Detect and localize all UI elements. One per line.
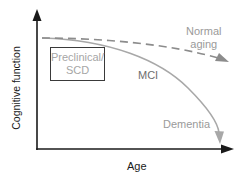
box-label-line2: SCD bbox=[66, 64, 89, 77]
mci-label: MCI bbox=[138, 69, 158, 81]
y-axis-arrow-icon bbox=[33, 9, 42, 21]
box-label-line1: Preclinical/ bbox=[51, 51, 104, 64]
normal-aging-label: Normal aging bbox=[186, 25, 221, 51]
normal-aging-label-line1: Normal bbox=[186, 25, 221, 38]
dementia-label: Dementia bbox=[163, 118, 210, 130]
preclinical-scd-box: Preclinical/ SCD bbox=[50, 47, 105, 81]
normal-aging-arrow-icon bbox=[215, 53, 229, 62]
x-axis-label: Age bbox=[127, 160, 147, 172]
y-axis-label: Cognitive function bbox=[10, 46, 22, 129]
normal-aging-label-line2: aging bbox=[186, 38, 221, 51]
decline-arrow-icon bbox=[215, 131, 225, 144]
x-axis-arrow-icon bbox=[221, 145, 234, 154]
